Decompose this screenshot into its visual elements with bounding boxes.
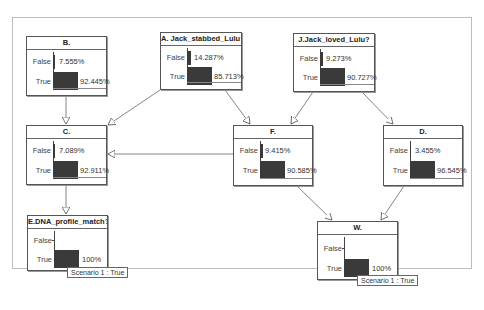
state-true: True 85.713%: [161, 67, 241, 87]
node-a-jack-stabbed-lulu[interactable]: A. Jack_stabbed_Lulu? False 14.287% True…: [160, 32, 242, 90]
state-label: False: [300, 54, 318, 63]
edge-f-w: [297, 186, 332, 220]
state-label: False: [167, 53, 185, 62]
node-f[interactable]: F. False 9.415% True 90.585%: [233, 125, 313, 186]
state-label: True: [243, 166, 258, 175]
state-false: False 14.287%: [161, 48, 241, 68]
probability-value: 14.287%: [194, 53, 224, 62]
tick-mark: [52, 240, 54, 241]
probability-bar: [410, 144, 411, 158]
probability-value: 7.089%: [59, 146, 84, 155]
state-label: True: [327, 264, 342, 273]
baseline: [53, 88, 106, 89]
probability-value: 9.273%: [326, 54, 351, 63]
probability-value: 92.445%: [80, 77, 110, 86]
state-true: True 92.911%: [27, 161, 106, 181]
node-c[interactable]: C. False 7.089% True 92.911%: [26, 125, 107, 185]
probability-value: 92.911%: [80, 166, 109, 175]
state-label: True: [170, 72, 185, 81]
state-label: False: [34, 236, 52, 245]
baseline: [260, 178, 312, 179]
probability-bar: [260, 161, 285, 179]
baseline: [410, 178, 462, 179]
probability-value: 85.713%: [214, 72, 244, 81]
probability-bar: [187, 51, 191, 65]
state-false: False 7.555%: [27, 52, 106, 72]
probability-bar: [54, 250, 79, 268]
scenario-label-w: Scenario 1 : True: [357, 275, 418, 286]
baseline: [320, 84, 374, 85]
node-d[interactable]: D. False 3.455% True 96.545%: [383, 125, 463, 186]
probability-bar: [53, 144, 55, 158]
edge-j-f: [291, 92, 313, 124]
state-false: False 9.273%: [294, 49, 374, 69]
state-false: False: [318, 239, 397, 259]
probability-bar: [320, 52, 323, 66]
probability-value: 90.727%: [347, 73, 377, 82]
state-true: True 92.445%: [27, 72, 106, 92]
probability-bar: [260, 144, 263, 158]
edge-a-f: [225, 90, 250, 124]
probability-bar: [53, 55, 55, 69]
node-title: B.: [27, 37, 106, 50]
state-true: True 90.727%: [294, 68, 374, 88]
state-label: True: [37, 255, 52, 264]
node-title: A. Jack_stabbed_Lulu?: [161, 33, 241, 46]
probability-value: 7.555%: [59, 57, 84, 66]
probability-value: 9.415%: [265, 146, 290, 155]
state-label: False: [390, 146, 408, 155]
tick-mark: [342, 248, 344, 249]
probability-value: 100%: [82, 255, 101, 264]
edge-j-d: [362, 92, 393, 124]
node-title: W.: [318, 222, 397, 235]
probability-value: 90.585%: [287, 166, 317, 175]
node-w[interactable]: W. False True 100%: [317, 221, 398, 280]
state-label: False: [33, 146, 51, 155]
state-label: True: [393, 166, 408, 175]
node-j-jack-loved-lulu[interactable]: J.Jack_loved_Lulu? False 9.273% True 90.…: [293, 33, 375, 92]
edge-d-w: [381, 186, 404, 220]
state-false: False: [28, 231, 107, 251]
baseline: [53, 177, 106, 178]
state-label: False: [33, 57, 51, 66]
state-label: True: [36, 77, 51, 86]
baseline: [187, 82, 241, 83]
node-e-dna-profile-match[interactable]: E.DNA_profile_match? False True 100%: [27, 215, 108, 271]
node-title: J.Jack_loved_Lulu?: [294, 34, 374, 47]
node-title: F.: [234, 126, 312, 139]
state-false: False 3.455%: [384, 141, 462, 161]
probability-value: 3.455%: [415, 146, 440, 155]
state-label: False: [324, 244, 342, 253]
scenario-label-e: Scenario 1 : True: [67, 267, 128, 278]
edge-a-c: [108, 90, 160, 125]
state-label: True: [303, 73, 318, 82]
node-b[interactable]: B. False 7.555% True 92.445%: [26, 36, 107, 96]
probability-bar: [410, 161, 435, 179]
state-false: False 9.415%: [234, 141, 312, 161]
state-label: False: [240, 146, 258, 155]
state-false: False 7.089%: [27, 141, 106, 161]
state-label: True: [36, 166, 51, 175]
node-title: D.: [384, 126, 462, 139]
node-title: C.: [27, 126, 106, 139]
probability-value: 96.545%: [437, 166, 467, 175]
probability-value: 100%: [372, 264, 391, 273]
node-title: E.DNA_profile_match?: [28, 216, 107, 229]
